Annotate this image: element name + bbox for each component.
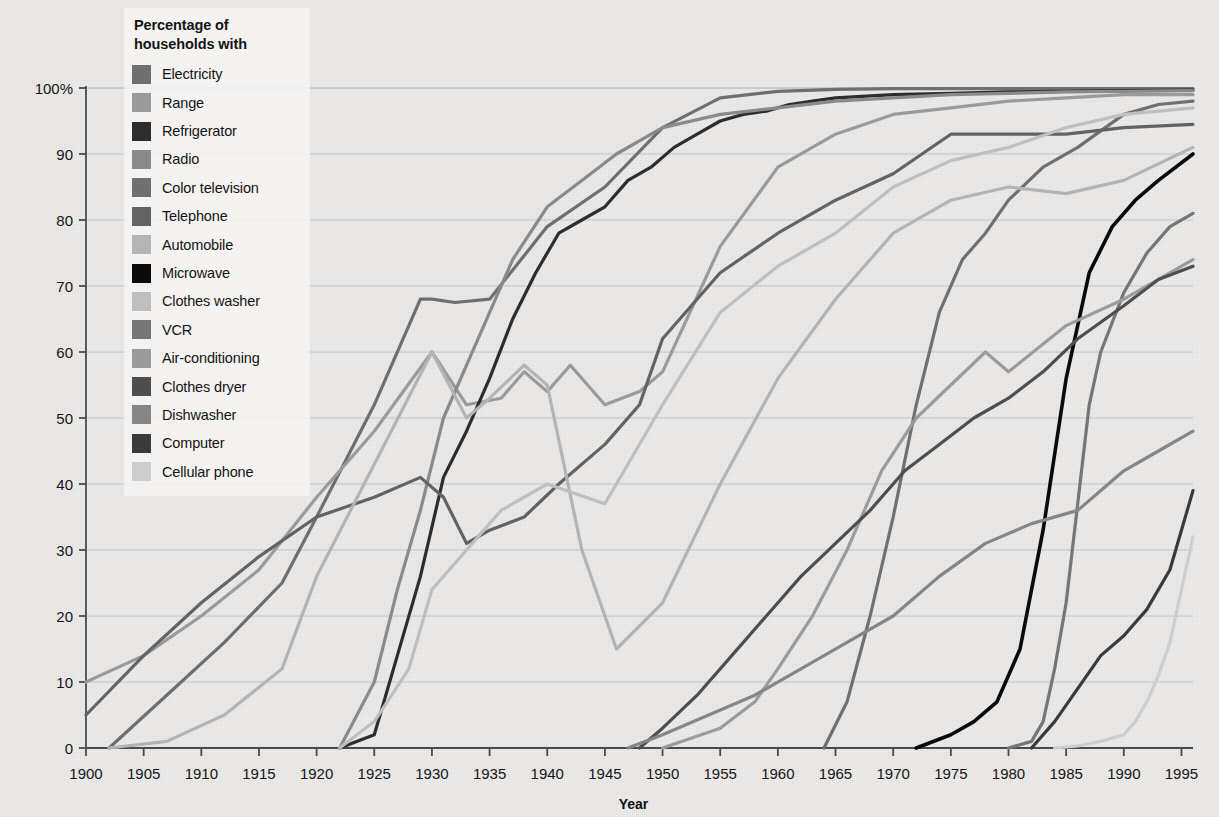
legend-item-label: Clothes dryer <box>162 379 246 395</box>
y-axis-tick-label: 70 <box>56 278 73 295</box>
x-axis-tick-label: 1945 <box>588 765 621 782</box>
legend-item-label: Electricity <box>162 66 222 82</box>
legend-swatch-icon <box>132 264 151 283</box>
series-line-microwave <box>916 154 1193 748</box>
legend-item-label: Automobile <box>162 237 233 253</box>
legend-item-label: Clothes washer <box>162 293 260 309</box>
legend-item-computer[interactable]: Computer <box>132 429 302 457</box>
x-axis-tick-label: 1950 <box>646 765 679 782</box>
x-axis-tick-label: 1920 <box>300 765 333 782</box>
y-axis-tick-label: 10 <box>56 674 73 691</box>
legend-item-label: Air-conditioning <box>162 350 260 366</box>
legend-items: ElectricityRangeRefrigeratorRadioColor t… <box>132 60 302 486</box>
x-axis-tick-label: 1900 <box>69 765 102 782</box>
legend-item-label: Range <box>162 95 204 111</box>
legend-item-telephone[interactable]: Telephone <box>132 202 302 230</box>
legend-item-automobile[interactable]: Automobile <box>132 230 302 258</box>
x-axis-tick-label: 1995 <box>1165 765 1198 782</box>
x-axis-tick-label: 1980 <box>992 765 1025 782</box>
legend-swatch-icon <box>132 93 151 112</box>
legend-item-vcr[interactable]: VCR <box>132 316 302 344</box>
x-axis-tick-label: 1990 <box>1107 765 1140 782</box>
x-axis-tick-label: 1955 <box>704 765 737 782</box>
legend-item-label: Telephone <box>162 208 228 224</box>
legend-item-range[interactable]: Range <box>132 88 302 116</box>
legend-item-label: Cellular phone <box>162 464 253 480</box>
legend-title: Percentage of households with <box>134 16 302 53</box>
y-axis-tick-label: 20 <box>56 608 73 625</box>
legend: Percentage of households with Electricit… <box>124 8 310 496</box>
legend-swatch-icon <box>132 377 151 396</box>
legend-item-label: VCR <box>162 322 192 338</box>
legend-item-microwave[interactable]: Microwave <box>132 259 302 287</box>
x-axis-tick-label: 1965 <box>819 765 852 782</box>
x-axis-tick-label: 1915 <box>242 765 275 782</box>
legend-item-refrigerator[interactable]: Refrigerator <box>132 117 302 145</box>
legend-swatch-icon <box>132 349 151 368</box>
y-axis-tick-label: 0 <box>65 740 73 757</box>
legend-item-clothes-dryer[interactable]: Clothes dryer <box>132 372 302 400</box>
legend-item-electricity[interactable]: Electricity <box>132 60 302 88</box>
series-line-air-conditioning <box>663 260 1193 748</box>
legend-swatch-icon <box>132 320 151 339</box>
legend-swatch-icon <box>132 405 151 424</box>
legend-item-dishwasher[interactable]: Dishwasher <box>132 401 302 429</box>
y-axis-tick-label: 100% <box>35 80 73 97</box>
y-axis-tick-label: 50 <box>56 410 73 427</box>
legend-swatch-icon <box>132 150 151 169</box>
x-axis-tick-label: 1940 <box>531 765 564 782</box>
x-axis-tick-label: 1925 <box>358 765 391 782</box>
y-axis-tick-label: 80 <box>56 212 73 229</box>
legend-item-label: Refrigerator <box>162 123 237 139</box>
legend-item-color-television[interactable]: Color television <box>132 174 302 202</box>
legend-item-label: Dishwasher <box>162 407 236 423</box>
y-axis-tick-label: 60 <box>56 344 73 361</box>
legend-swatch-icon <box>132 178 151 197</box>
legend-swatch-icon <box>132 65 151 84</box>
y-axis-tick-label: 90 <box>56 146 73 163</box>
x-axis-tick-label: 1910 <box>185 765 218 782</box>
legend-swatch-icon <box>132 434 151 453</box>
legend-swatch-icon <box>132 462 151 481</box>
series-line-radio <box>340 91 1193 748</box>
series-line-vcr <box>1009 213 1194 748</box>
legend-item-label: Radio <box>162 151 199 167</box>
y-axis-tick-label: 30 <box>56 542 73 559</box>
legend-swatch-icon <box>132 207 151 226</box>
series-line-cellular-phone <box>1055 537 1193 748</box>
y-axis-tick-label: 40 <box>56 476 73 493</box>
legend-item-radio[interactable]: Radio <box>132 145 302 173</box>
x-axis-tick-label: 1985 <box>1049 765 1082 782</box>
x-axis-tick-label: 1905 <box>127 765 160 782</box>
legend-item-cellular-phone[interactable]: Cellular phone <box>132 458 302 486</box>
legend-swatch-icon <box>132 122 151 141</box>
chart-canvas: 0102030405060708090100%19001905191019151… <box>0 0 1219 817</box>
legend-item-label: Microwave <box>162 265 230 281</box>
x-axis-tick-label: 1935 <box>473 765 506 782</box>
x-axis-title: Year <box>619 796 649 812</box>
x-axis-tick-label: 1970 <box>877 765 910 782</box>
legend-item-air-conditioning[interactable]: Air-conditioning <box>132 344 302 372</box>
legend-item-label: Computer <box>162 435 224 451</box>
legend-swatch-icon <box>132 235 151 254</box>
legend-item-label: Color television <box>162 180 259 196</box>
x-axis-tick-label: 1960 <box>761 765 794 782</box>
x-axis-tick-label: 1975 <box>934 765 967 782</box>
series-line-dishwasher <box>628 431 1193 748</box>
series-line-computer <box>1032 491 1193 748</box>
legend-swatch-icon <box>132 292 151 311</box>
series-line-clothes-dryer <box>640 266 1194 748</box>
legend-item-clothes-washer[interactable]: Clothes washer <box>132 287 302 315</box>
x-axis-tick-label: 1930 <box>415 765 448 782</box>
